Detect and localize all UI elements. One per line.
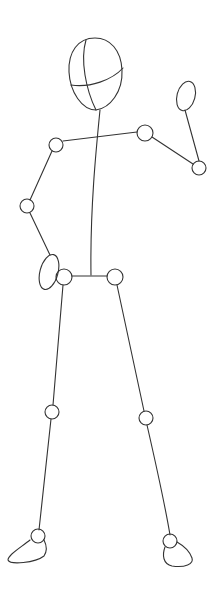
left-shin: [39, 419, 51, 530]
left-knee-joint: [45, 405, 59, 419]
right-shin: [147, 425, 170, 535]
right-forearm: [185, 110, 199, 161]
right-hip-joint: [107, 269, 123, 285]
left-foot: [8, 540, 46, 563]
right-hand: [173, 79, 198, 113]
left-hip-joint: [56, 269, 72, 285]
right-thigh: [117, 285, 144, 411]
right-shoulder-joint: [137, 125, 153, 141]
left-elbow-joint: [20, 199, 34, 213]
right-foot: [163, 542, 192, 567]
shoulder-line: [63, 132, 137, 141]
left-upper-arm: [30, 151, 52, 200]
left-thigh: [53, 285, 63, 405]
right-ankle-joint: [163, 534, 177, 548]
head: [69, 38, 123, 110]
joints: [20, 125, 206, 548]
right-upper-arm: [152, 137, 193, 164]
spine: [91, 110, 100, 275]
right-knee-joint: [139, 411, 153, 425]
left-forearm: [30, 213, 50, 255]
stick-figure-diagram: [0, 0, 211, 592]
right-elbow-joint: [192, 161, 206, 175]
left-shoulder-joint: [49, 138, 63, 152]
left-ankle-joint: [31, 529, 45, 543]
